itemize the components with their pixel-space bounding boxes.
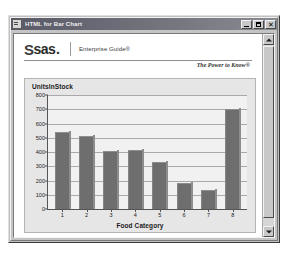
bar[interactable] (177, 183, 192, 209)
bar-slot: 3 (99, 95, 123, 209)
window-title: HTML for Bar Chart (25, 19, 241, 29)
plot-area-wrapper: 0100200300400500600700800 12345678 (47, 95, 247, 210)
report-page: S sas . Enterprise Guide® The Power to K… (14, 34, 262, 237)
bar-slot: 8 (221, 95, 245, 209)
scroll-down-arrow-icon (266, 230, 272, 233)
scroll-up-button[interactable] (263, 34, 274, 45)
x-axis-tick-label: 2 (85, 212, 88, 218)
document-icon (12, 19, 22, 29)
bar-slot: 6 (172, 95, 196, 209)
sas-branding-header: S sas . Enterprise Guide® The Power to K… (24, 40, 256, 74)
vertical-scrollbar[interactable] (262, 34, 274, 237)
x-axis-tick-label: 8 (231, 212, 234, 218)
scroll-down-button[interactable] (263, 226, 274, 237)
bar[interactable] (79, 136, 94, 209)
y-axis-tick-label: 700 (36, 106, 45, 112)
scrollbar-thumb[interactable] (263, 46, 274, 218)
y-axis-tick-label: 400 (36, 149, 45, 155)
chart-panel: UnitsInStock 0100200300400500600700800 1… (24, 78, 256, 233)
bar[interactable] (201, 190, 216, 209)
y-axis-tick-label: 800 (36, 92, 45, 98)
y-axis-tick-label: 100 (36, 192, 45, 198)
bar[interactable] (128, 150, 143, 209)
brand-divider (70, 42, 71, 56)
bar[interactable] (225, 109, 240, 209)
brand-row: S sas . Enterprise Guide® (24, 40, 256, 57)
gridline (48, 209, 247, 210)
bar-series: 12345678 (48, 95, 247, 209)
brand-rule (24, 60, 252, 61)
bar-slot: 2 (74, 95, 98, 209)
chart-title: UnitsInStock (32, 83, 73, 90)
y-axis-tick-label: 0 (42, 206, 45, 212)
bar-slot: 1 (50, 95, 74, 209)
x-axis-tick-label: 6 (183, 212, 186, 218)
x-axis-tick-label: 3 (109, 212, 112, 218)
bar-slot: 5 (148, 95, 172, 209)
document-client-area: S sas . Enterprise Guide® The Power to K… (13, 33, 275, 238)
product-name: Enterprise Guide® (79, 46, 130, 52)
bar-slot: 4 (123, 95, 147, 209)
bar[interactable] (55, 132, 70, 209)
sas-logo-word: sas (34, 42, 56, 56)
scroll-up-arrow-icon (266, 38, 272, 41)
y-axis-tick-label: 300 (36, 163, 45, 169)
minimize-button[interactable] (241, 20, 252, 29)
y-axis-tick-label: 600 (36, 121, 45, 127)
x-axis-title: Food Category (25, 222, 255, 229)
application-window: HTML for Bar Chart ✕ S sas . Enterprise … (8, 15, 280, 243)
x-axis-tick-label: 4 (134, 212, 137, 218)
bar[interactable] (103, 151, 118, 209)
bar-slot: 7 (196, 95, 220, 209)
bar[interactable] (152, 162, 167, 209)
x-axis-tick-label: 5 (158, 212, 161, 218)
title-bar[interactable]: HTML for Bar Chart ✕ (11, 18, 277, 30)
brand-tagline: The Power to Know® (197, 62, 250, 68)
y-axis-tick-label: 200 (36, 178, 45, 184)
x-axis-tick-label: 1 (61, 212, 64, 218)
plot-area: 0100200300400500600700800 12345678 (47, 95, 247, 210)
sas-logo-s: S (24, 42, 34, 57)
maximize-button[interactable] (253, 20, 264, 29)
sas-logo-dot: . (56, 41, 60, 57)
y-axis-tick-label: 500 (36, 135, 45, 141)
x-axis-tick-label: 7 (207, 212, 210, 218)
window-controls: ✕ (241, 20, 276, 29)
sas-logo: S sas . (24, 41, 60, 57)
close-button[interactable]: ✕ (265, 20, 276, 29)
